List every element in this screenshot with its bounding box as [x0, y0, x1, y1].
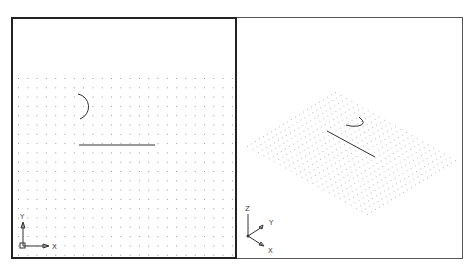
ucs-z-label: Z	[245, 205, 250, 213]
ucs-y-label: Y	[19, 213, 25, 221]
drawing-canvas: Y X Z Y X	[0, 0, 476, 270]
ucs-x-label-iso: X	[268, 247, 273, 255]
ucs-icon-2d: Y X	[19, 213, 57, 251]
ucs-x-label: X	[52, 243, 57, 251]
ucs-icon-3d: Z Y X	[245, 205, 274, 255]
grid-dots-isometric-view	[247, 92, 456, 215]
arc-iso-view[interactable]	[346, 117, 363, 126]
ucs-y-label-iso: Y	[268, 219, 274, 227]
grid-dots-top-view	[18, 78, 233, 256]
